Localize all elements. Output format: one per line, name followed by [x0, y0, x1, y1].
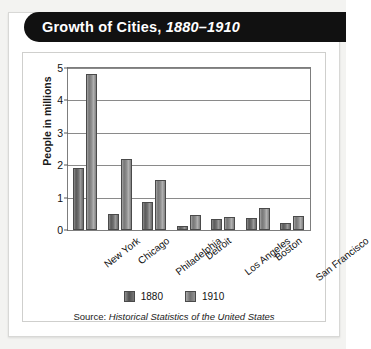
source-prefix: Source:: [73, 311, 106, 322]
bars-group: [68, 68, 310, 230]
source-title: Historical Statistics of the United Stat…: [109, 311, 275, 322]
page-title: Growth of Cities, 1880–1910: [42, 19, 240, 35]
chart-panel: People in millions 012345 New YorkChicag…: [22, 52, 326, 322]
bar-group: [73, 68, 102, 230]
title-banner: Growth of Cities, 1880–1910: [24, 12, 346, 42]
x-axis-labels: New YorkChicagoPhiladelphiaDetroitLos An…: [67, 233, 311, 285]
title-years-text: 1880–1910: [166, 19, 240, 35]
plot-wrapper: People in millions 012345 New YorkChicag…: [23, 53, 325, 321]
plot-area: 012345: [67, 67, 311, 231]
legend-label: 1880: [141, 291, 163, 302]
bar: [73, 168, 84, 230]
bar: [142, 202, 153, 230]
x-tick-label: Chicago: [135, 235, 171, 266]
y-tick-label: 5: [57, 62, 63, 74]
y-tick-label: 1: [57, 192, 63, 204]
bar: [155, 180, 166, 230]
legend-label: 1910: [202, 291, 224, 302]
source-note: Source: Historical Statistics of the Uni…: [23, 311, 325, 322]
bar: [211, 219, 222, 230]
bar-group: [108, 68, 137, 230]
legend-item[interactable]: 1880: [124, 291, 163, 302]
x-tick-label: New York: [102, 235, 142, 270]
bar: [121, 159, 132, 230]
bar: [280, 223, 291, 230]
bar: [293, 216, 304, 230]
y-tick-label: 4: [57, 94, 63, 106]
bar: [86, 74, 97, 230]
bar-group: [280, 68, 309, 230]
chart-legend: 18801910: [23, 291, 325, 302]
bar: [246, 218, 257, 230]
bar: [177, 226, 188, 230]
bar: [190, 215, 201, 230]
bar-group: [177, 68, 206, 230]
legend-swatch: [124, 291, 135, 302]
y-tick-label: 0: [57, 224, 63, 236]
bar-group: [246, 68, 275, 230]
y-tick-label: 2: [57, 159, 63, 171]
legend-item[interactable]: 1910: [185, 291, 224, 302]
title-main-text: Growth of Cities,: [42, 19, 161, 35]
bar: [224, 217, 235, 230]
bar: [108, 214, 119, 230]
y-axis-label: People in millions: [41, 61, 53, 181]
legend-swatch: [185, 291, 196, 302]
bar: [259, 208, 270, 230]
bar-group: [211, 68, 240, 230]
bar-group: [142, 68, 171, 230]
y-tick-label: 3: [57, 127, 63, 139]
x-tick-label: San Francisco: [314, 235, 371, 283]
